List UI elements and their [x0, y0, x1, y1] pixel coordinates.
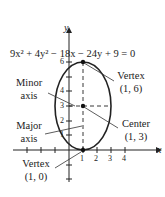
x-tick-4: 4: [122, 155, 126, 163]
x-tick-2: 2: [94, 155, 98, 163]
equation: 9x² + 4y² − 18x − 24y + 9 = 0: [10, 48, 135, 59]
x-axis-label: x: [157, 144, 161, 155]
center-label: Center (1, 3): [118, 118, 154, 142]
x-tick-3: 3: [108, 155, 112, 163]
y-tick-6: 6: [60, 58, 64, 66]
y-tick-3: 3: [60, 102, 64, 110]
top-vertex-label: Vertex (1, 6): [113, 70, 149, 94]
y-axis-label: y: [64, 22, 68, 33]
x-tick-1: 1: [80, 155, 84, 163]
bottom-vertex-point: [81, 148, 85, 152]
y-tick-2: 2: [60, 117, 64, 125]
major-axis-label: Major axis: [12, 120, 46, 144]
minor-axis-label: Minor axis: [12, 77, 46, 101]
bottom-vertex-label: Vertex (1, 0): [18, 158, 54, 182]
y-tick-4: 4: [60, 87, 64, 95]
y-tick-1: 1: [60, 131, 64, 139]
